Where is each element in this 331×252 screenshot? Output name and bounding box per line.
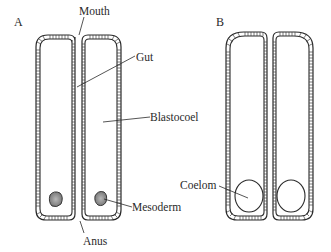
tube-right-b [273, 32, 313, 220]
label-coelom: Coelom [180, 179, 216, 191]
label-mesoderm: Mesoderm [132, 201, 181, 213]
mesoderm-right-a [95, 192, 107, 206]
panel-b-label: B [216, 15, 224, 29]
panel-b: B Coel [180, 15, 313, 220]
panel-a: A [14, 5, 199, 247]
embryo-diagram: A [0, 0, 331, 252]
label-anus: Anus [83, 235, 108, 247]
panel-a-label: A [14, 15, 23, 29]
label-gut: Gut [136, 51, 154, 63]
mesoderm-left-a [49, 192, 62, 207]
label-blastocoel: Blastocoel [150, 111, 199, 123]
coelom-left-b [235, 180, 263, 212]
label-mouth: Mouth [79, 5, 110, 17]
coelom-right-b [277, 180, 305, 212]
